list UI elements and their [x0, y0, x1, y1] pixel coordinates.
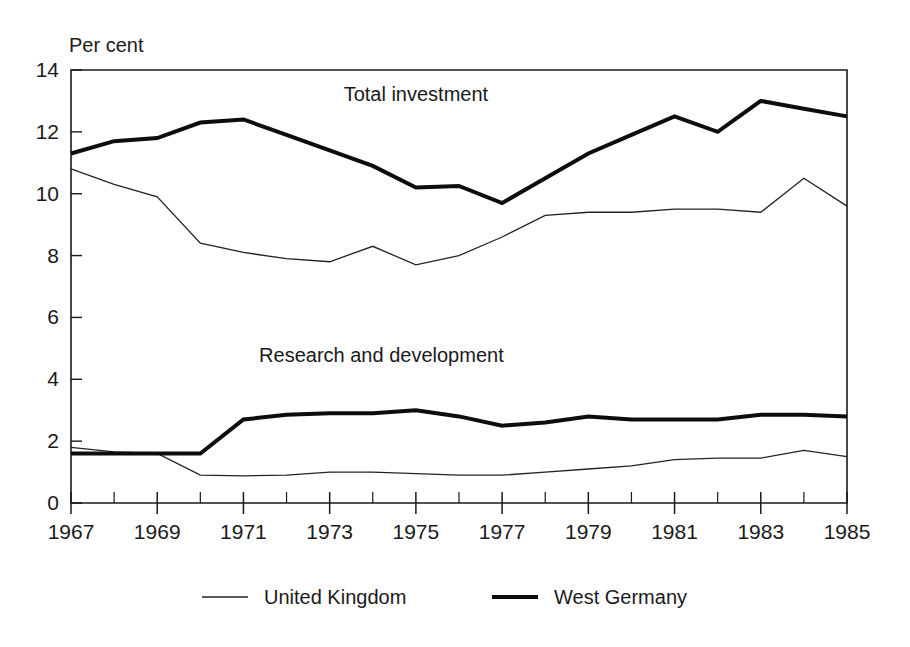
y-axis-tick-label: 12	[36, 120, 59, 143]
x-axis-tick-label: 1983	[737, 520, 784, 543]
legend-label-united-kingdom: United Kingdom	[264, 586, 406, 608]
x-axis-tick-label: 1985	[824, 520, 871, 543]
x-axis-tick-label: 1977	[479, 520, 526, 543]
chart-annotation-1: Total investment	[344, 83, 489, 105]
x-axis-ticks: 1967196919711973197519771979198119831985	[48, 492, 871, 543]
series-group-research-and-development	[71, 410, 847, 476]
chart-legend: United KingdomWest Germany	[202, 586, 687, 608]
y-axis-tick-label: 2	[47, 429, 59, 452]
line-chart: Per cent 02468101214 1967196919711973197…	[0, 0, 910, 647]
y-axis-unit-label: Per cent	[69, 34, 144, 56]
series-line-united-kingdom	[71, 169, 847, 265]
x-axis-tick-label: 1967	[48, 520, 95, 543]
plot-frame	[71, 70, 847, 503]
chart-container: Per cent 02468101214 1967196919711973197…	[0, 0, 910, 647]
annotations-layer: Total investmentResearch and development	[259, 83, 504, 366]
x-axis-tick-label: 1969	[134, 520, 181, 543]
series-layer	[71, 101, 847, 476]
series-line-west-germany	[71, 101, 847, 203]
x-axis-tick-label: 1971	[220, 520, 267, 543]
series-line-west-germany	[71, 410, 847, 453]
y-axis-tick-label: 10	[36, 182, 59, 205]
y-axis-ticks: 02468101214	[36, 58, 82, 514]
legend-label-west-germany: West Germany	[554, 586, 687, 608]
y-axis-tick-label: 14	[36, 58, 60, 81]
x-axis-tick-label: 1981	[651, 520, 698, 543]
y-axis-tick-label: 0	[47, 491, 59, 514]
series-group-total-investment	[71, 101, 847, 265]
x-axis-tick-label: 1975	[393, 520, 440, 543]
y-axis-tick-label: 8	[47, 244, 59, 267]
x-axis-tick-label: 1973	[306, 520, 353, 543]
x-axis-tick-label: 1979	[565, 520, 612, 543]
y-axis-tick-label: 6	[47, 305, 59, 328]
y-axis-tick-label: 4	[47, 367, 59, 390]
chart-annotation-2: Research and development	[259, 344, 504, 366]
